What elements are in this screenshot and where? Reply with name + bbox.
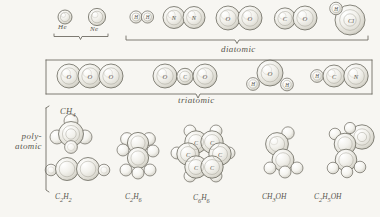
molecule-ch4 bbox=[50, 114, 92, 153]
molecule-h2: H H bbox=[130, 11, 154, 23]
group-label-triatomic: triatomic bbox=[178, 95, 215, 105]
svg-text:O: O bbox=[163, 73, 168, 80]
svg-text:O: O bbox=[88, 73, 93, 80]
group-label-polyatomic-line1: poly- bbox=[22, 131, 43, 141]
svg-text:H: H bbox=[250, 81, 255, 87]
molecule-c6h6: C C C C C C bbox=[171, 125, 235, 182]
molecule-h2o: O H H bbox=[247, 60, 294, 91]
svg-text:C: C bbox=[283, 15, 288, 22]
group-label-polyatomic: poly- atomic bbox=[6, 131, 42, 151]
svg-text:O: O bbox=[248, 15, 253, 22]
svg-text:Cl: Cl bbox=[348, 17, 354, 24]
molecule-c2h2 bbox=[45, 158, 110, 181]
molecule-artwork: .ball { fill:url(#sph); stroke:#6b6960; … bbox=[0, 0, 380, 217]
svg-text:N: N bbox=[191, 14, 197, 21]
svg-text:O: O bbox=[268, 70, 273, 77]
bracket-monatomic bbox=[54, 34, 108, 40]
svg-text:O: O bbox=[226, 15, 231, 22]
caption-c2h6: C2H6 bbox=[125, 192, 142, 203]
molecule-o3: O O O bbox=[57, 64, 123, 88]
svg-text:N: N bbox=[171, 14, 177, 21]
bracket-diatomic bbox=[126, 36, 368, 44]
svg-text:H: H bbox=[333, 6, 338, 12]
figure-sheet: .ball { fill:url(#sph); stroke:#6b6960; … bbox=[0, 0, 380, 217]
molecule-co: C O bbox=[274, 6, 317, 30]
group-label-diatomic: diatomic bbox=[221, 44, 256, 54]
molecule-ne bbox=[88, 8, 105, 25]
molecule-c2h6 bbox=[117, 132, 159, 179]
label-he: He bbox=[58, 23, 67, 31]
caption-ch3oh: CH3OH bbox=[262, 192, 286, 203]
caption-c2h5oh: C2H5OH bbox=[314, 192, 342, 203]
molecule-n2: N N bbox=[163, 7, 205, 29]
molecule-c2h5oh bbox=[327, 122, 374, 177]
molecule-he bbox=[58, 10, 72, 24]
label-ne: Ne bbox=[90, 25, 99, 33]
molecule-hcl: H Cl bbox=[330, 2, 365, 35]
caption-c2h2: C2H2 bbox=[55, 192, 72, 203]
svg-text:H: H bbox=[133, 14, 138, 20]
molecule-co2: O C O bbox=[153, 64, 217, 88]
svg-text:O: O bbox=[303, 15, 308, 22]
svg-text:C: C bbox=[183, 74, 187, 80]
caption-ch4: CH4 bbox=[60, 106, 76, 118]
svg-text:O: O bbox=[203, 73, 208, 80]
molecule-hcn: H C N bbox=[311, 64, 369, 88]
svg-text:N: N bbox=[353, 73, 359, 80]
svg-text:H: H bbox=[284, 82, 289, 88]
group-label-polyatomic-line2: atomic bbox=[15, 141, 42, 151]
svg-text:O: O bbox=[109, 73, 114, 80]
molecule-o2: O O bbox=[216, 6, 262, 30]
svg-text:O: O bbox=[67, 73, 72, 80]
bracket-polyatomic bbox=[46, 106, 49, 192]
molecule-ch3oh bbox=[264, 127, 303, 178]
caption-c6h6: C6H6 bbox=[193, 193, 210, 204]
svg-text:H: H bbox=[145, 14, 150, 20]
svg-text:H: H bbox=[314, 73, 319, 79]
